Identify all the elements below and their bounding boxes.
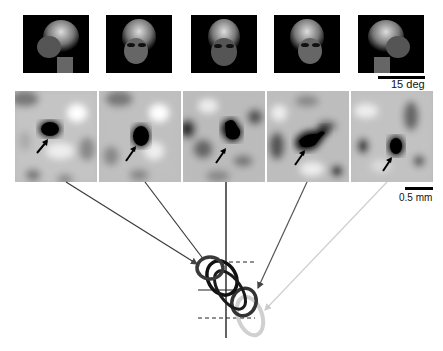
- contour-overlay: [0, 0, 443, 351]
- connector-line-4: [258, 182, 307, 288]
- connector-line-2: [145, 182, 204, 260]
- connector-line-5: [265, 182, 387, 310]
- connector-line-1: [66, 182, 197, 264]
